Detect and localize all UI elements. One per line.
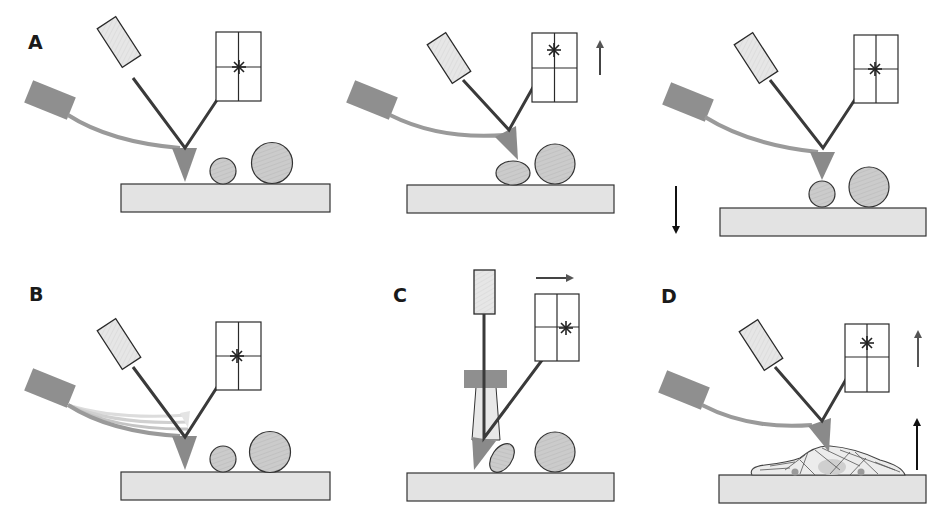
laser-source [97,17,141,68]
laser-source [427,33,471,84]
cantilever-beam [390,115,505,136]
large-particle [849,167,889,207]
cantilever-chip [658,370,710,409]
panel-label-b: B [29,283,43,305]
panel-a3 [662,33,926,236]
panel-label-c: C [393,284,407,306]
laser-source [734,33,778,84]
laser-spot-star-icon [547,43,561,57]
large-particle [250,432,291,473]
afm-tip [810,152,835,180]
laser-spot-star-icon [232,60,246,74]
substrate [121,472,330,500]
laser-source [474,270,495,314]
cantilever-chip [24,80,76,119]
small-particle [210,158,236,184]
laser-spot-star-icon [868,62,882,76]
laser-spot-star-icon [230,349,244,363]
photodetector [845,324,889,392]
substrate [719,475,926,503]
laser-source [739,320,783,371]
panel-c: C [393,270,614,501]
substrate [720,208,926,236]
small-particle [809,181,835,207]
cantilever-end-view [472,387,500,440]
panel-d: D [658,285,926,503]
afm-tip [172,148,197,182]
small-particle [210,446,236,472]
cantilever-beam [702,405,812,426]
afm-schematic-figure: A [0,0,944,515]
panel-label-a: A [28,31,43,53]
panel-b: B [24,283,330,500]
substrate [407,473,614,501]
panel-a1: A [24,17,330,212]
substrate [121,184,330,212]
cantilever-chip [24,368,76,407]
laser-source [97,319,141,370]
large-particle [252,143,293,184]
cantilever-chip [346,80,398,119]
large-particle [535,432,575,472]
afm-tip [172,436,197,470]
laser-spot-star-icon [860,336,874,350]
afm-tip [495,126,518,160]
deformed-particle [496,161,530,185]
substrate [407,185,614,213]
laser-spot-star-icon [559,321,573,335]
large-particle [535,144,575,184]
panel-a2 [346,33,614,213]
panel-label-d: D [661,285,677,307]
